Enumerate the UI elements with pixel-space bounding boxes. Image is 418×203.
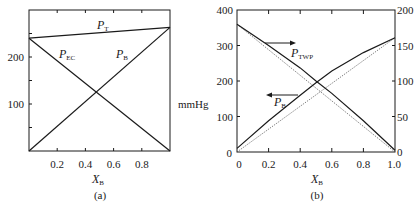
ytick-left-300: 300 [217,40,234,52]
label-ptwp: PTWP [290,46,313,61]
xtick-0.4: 0.4 [79,158,93,170]
caption-b: (b) [311,189,324,202]
figure: PT PEC PB 200 100 0.2 0.4 0.6 0.8 XB (a)… [0,0,418,203]
ytick-right-200: 200 [397,4,414,16]
xlabel-a: XB [91,172,104,187]
xlabel-b: XB [310,172,323,187]
ytick-right-100: 100 [397,75,414,87]
label-pec: PEC [58,47,76,62]
label-pt: PT [96,18,109,33]
xtick-b-0: 0 [236,158,242,170]
arrow-right-icon [265,41,296,46]
ytick-left-100: 100 [217,111,234,123]
ytick-left-0: 0 [227,147,233,159]
xtick-0.8: 0.8 [135,158,149,170]
curve-pb-ideal [237,38,395,152]
ylabel-mmhg: mmHg [178,98,209,110]
ytick-right-150: 150 [397,40,414,52]
caption-a: (a) [94,189,107,202]
curve-ptwp-ideal [237,24,395,152]
label-pb-b: PB [273,95,286,110]
xtick-b-0.4: 0.4 [293,158,307,170]
curve-ptwp [237,24,395,150]
xtick-0.2: 0.2 [50,158,64,170]
xtick-b-1.0: 1.0 [387,158,401,170]
xtick-b-0.8: 0.8 [357,158,371,170]
ytick-100: 100 [8,98,25,110]
xtick-b-0.6: 0.6 [325,158,339,170]
chart-a: PT PEC PB 200 100 0.2 0.4 0.6 0.8 XB (a) [8,10,171,202]
curve-pb [29,27,170,151]
label-pb: PB [115,47,128,62]
xtick-0.6: 0.6 [107,158,121,170]
ytick-left-200: 200 [217,75,234,87]
curve-pb-b [237,38,395,149]
ytick-200: 200 [8,51,25,63]
ytick-left-400: 400 [217,4,234,16]
xtick-b-0.2: 0.2 [262,158,276,170]
chart-b: PTWP PB 400 300 200 100 0 200 150 100 50… [217,4,415,202]
curve-pec [29,38,170,151]
arrow-left-icon [266,93,298,98]
ytick-right-50: 50 [397,111,409,123]
ytick-right-0: 0 [397,146,403,158]
